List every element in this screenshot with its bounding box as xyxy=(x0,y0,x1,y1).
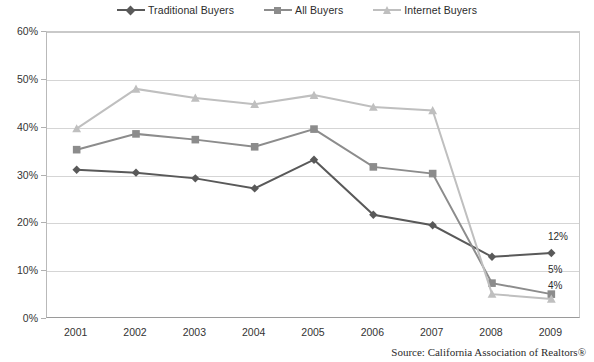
y-axis-tick-label: 60% xyxy=(17,25,38,37)
square-marker xyxy=(429,170,437,178)
end-label-internet-buyers: 4% xyxy=(548,280,562,291)
x-axis-tick-label: 2004 xyxy=(242,326,265,338)
chart-legend: Traditional Buyers All Buyers Internet B… xyxy=(0,0,594,20)
diamond-marker xyxy=(72,166,80,174)
diamond-marker xyxy=(191,174,199,182)
series-internet-buyers xyxy=(72,85,555,303)
diamond-marker-icon xyxy=(117,5,145,15)
x-axis-tick-label: 2001 xyxy=(64,326,87,338)
square-marker xyxy=(251,143,259,151)
x-axis-tick-label: 2002 xyxy=(123,326,146,338)
square-marker xyxy=(192,136,200,144)
legend-item-traditional-buyers[interactable]: Traditional Buyers xyxy=(117,4,234,16)
source-note: Source: California Association of Realto… xyxy=(391,346,586,358)
diamond-marker xyxy=(488,253,496,261)
legend-item-internet-buyers[interactable]: Internet Buyers xyxy=(373,4,477,16)
x-axis-tick-label: 2009 xyxy=(539,326,562,338)
data-series-layer xyxy=(47,32,581,319)
end-label-traditional-buyers: 12% xyxy=(548,231,568,242)
legend-label-traditional-buyers: Traditional Buyers xyxy=(148,4,234,16)
end-label-all-buyers: 5% xyxy=(548,264,562,275)
diamond-marker xyxy=(547,249,555,257)
y-axis-tick-mark xyxy=(41,318,46,319)
triangle-marker-icon xyxy=(373,5,401,15)
x-axis-tick-label: 2006 xyxy=(361,326,384,338)
y-axis-tick-label: 0% xyxy=(23,312,38,324)
series-line xyxy=(77,160,552,257)
legend-label-internet-buyers: Internet Buyers xyxy=(404,4,477,16)
square-marker xyxy=(310,125,318,133)
x-axis: 200120022003200420052006200720082009 xyxy=(46,322,580,342)
series-traditional-buyers xyxy=(72,156,555,262)
square-marker xyxy=(132,130,140,138)
series-line xyxy=(77,89,552,299)
square-marker xyxy=(370,163,378,171)
diamond-marker xyxy=(250,184,258,192)
diamond-marker xyxy=(428,221,436,229)
y-axis-tick-label: 30% xyxy=(17,169,38,181)
y-axis-tick-label: 20% xyxy=(17,216,38,228)
x-axis-tick-label: 2005 xyxy=(301,326,324,338)
x-axis-tick-label: 2003 xyxy=(183,326,206,338)
legend-item-all-buyers[interactable]: All Buyers xyxy=(264,4,343,16)
y-axis-tick-label: 50% xyxy=(17,73,38,85)
legend-label-all-buyers: All Buyers xyxy=(295,4,343,16)
chart-container: Traditional Buyers All Buyers Internet B… xyxy=(0,0,594,362)
square-marker-icon xyxy=(264,5,292,15)
series-line xyxy=(77,129,552,294)
diamond-marker xyxy=(132,168,140,176)
y-axis-tick-label: 40% xyxy=(17,121,38,133)
x-axis-tick-label: 2007 xyxy=(420,326,443,338)
y-axis-tick-label: 10% xyxy=(17,264,38,276)
series-all-buyers xyxy=(73,125,555,298)
square-marker xyxy=(73,146,81,154)
plot-area xyxy=(46,31,580,318)
x-axis-tick-label: 2008 xyxy=(479,326,502,338)
y-axis: 0%10%20%30%40%50%60% xyxy=(0,31,42,318)
